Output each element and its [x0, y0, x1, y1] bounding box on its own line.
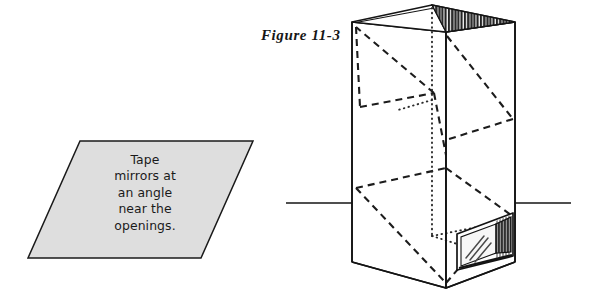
- figure-canvas: Tape mirrors at an angle near the openin…: [0, 0, 590, 298]
- callout-text-block: Tape mirrors at an angle near the openin…: [95, 152, 195, 234]
- callout-line-4: near the: [95, 201, 195, 217]
- figure-label: Figure 11-3: [261, 27, 341, 44]
- callout-line-2: mirrors at: [95, 168, 195, 184]
- callout-shape: [0, 0, 590, 298]
- callout-line-3: an angle: [95, 185, 195, 201]
- callout-line-5: openings.: [95, 218, 195, 234]
- callout-line-1: Tape: [95, 152, 195, 168]
